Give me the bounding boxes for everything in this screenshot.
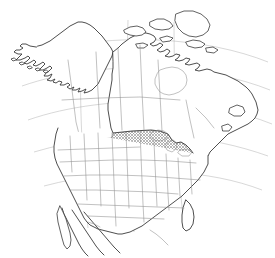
- aleutian-island-5: [43, 70, 48, 73]
- florida-peninsula: [182, 200, 194, 231]
- arctic-island-b: [160, 36, 173, 42]
- aleutian-island-2: [19, 62, 24, 65]
- aleutian-island-3: [27, 66, 32, 69]
- aleutian-island-4: [35, 68, 40, 71]
- map-canvas: [0, 0, 275, 258]
- aleutian-island-1: [11, 58, 16, 61]
- alaska-mainland: [14, 22, 113, 93]
- arctic-island-a: [186, 40, 205, 48]
- baffin-island-west: [150, 19, 173, 30]
- arctic-island-d: [206, 47, 218, 53]
- distribution-range-map: [0, 0, 275, 258]
- yucatan-line: [150, 230, 168, 245]
- baffin-island: [175, 11, 210, 37]
- victoria-island: [124, 26, 146, 36]
